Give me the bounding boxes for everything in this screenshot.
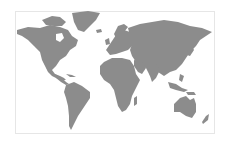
- new-zealand: [202, 114, 209, 124]
- philippines: [179, 74, 184, 82]
- caribbean: [66, 74, 76, 77]
- south-america: [64, 82, 90, 130]
- new-guinea: [186, 92, 196, 95]
- world-map: [0, 0, 229, 141]
- greenland: [72, 11, 100, 32]
- madagascar: [134, 96, 137, 106]
- southeast-asia: [168, 82, 188, 92]
- iceland: [96, 29, 102, 33]
- central-america: [55, 74, 69, 85]
- uk-ireland: [105, 38, 110, 45]
- australia: [174, 96, 196, 118]
- arctic-islands: [42, 16, 66, 26]
- north-america: [17, 25, 78, 80]
